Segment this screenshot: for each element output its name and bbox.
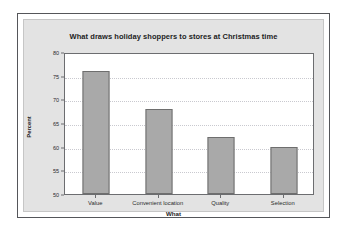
bars-layer [65, 54, 313, 194]
bar-slot [190, 54, 253, 194]
bar-slot [253, 54, 316, 194]
graph-panel: What draws holiday shoppers to stores at… [23, 19, 324, 212]
bar[interactable] [83, 71, 110, 194]
y-tick-label: 55 [24, 168, 59, 174]
x-tick-mark [95, 195, 96, 198]
y-tick-label: 70 [24, 97, 59, 103]
bar[interactable] [208, 137, 235, 194]
x-tick-label: Quality [211, 200, 229, 206]
x-tick-mark [283, 195, 284, 198]
y-tick-label: 80 [24, 50, 59, 56]
y-tick-label: 75 [24, 74, 59, 80]
y-axis-title: Percent [26, 116, 32, 137]
x-axis-title: What [24, 210, 323, 217]
x-tick-label: Selection [271, 200, 295, 206]
bar[interactable] [270, 147, 297, 194]
x-tick-mark [220, 195, 221, 198]
chart-screenshot: What draws holiday shoppers to stores at… [0, 0, 350, 232]
x-tick-label: Value [88, 200, 102, 206]
x-tick-mark [158, 195, 159, 198]
plot-area [64, 53, 314, 195]
y-tick-label: 50 [24, 192, 59, 198]
bar-slot [128, 54, 191, 194]
x-tick-label: Convenient location [132, 200, 183, 206]
figure-frame: What draws holiday shoppers to stores at… [17, 13, 330, 218]
y-tick-label: 65 [24, 121, 59, 127]
y-tick-label: 60 [24, 145, 59, 151]
bar-slot [65, 54, 128, 194]
chart-title: What draws holiday shoppers to stores at… [24, 32, 323, 41]
bar[interactable] [145, 109, 172, 194]
